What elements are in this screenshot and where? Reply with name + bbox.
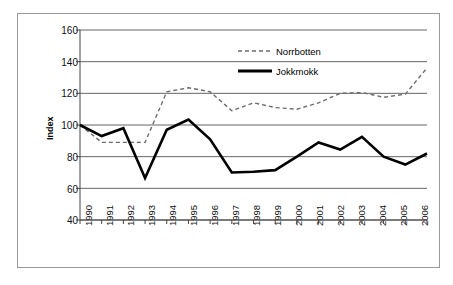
y-tick-marks <box>76 30 80 220</box>
chart-figure: Index 160 140 120 100 80 60 40 1990 1991… <box>0 0 453 285</box>
plot-area: Index 160 140 120 100 80 60 40 1990 1991… <box>0 0 453 285</box>
chart-svg <box>0 0 453 285</box>
series-line-norrbotten <box>80 68 427 142</box>
x-tick-marks <box>80 220 427 224</box>
gridlines <box>80 30 427 220</box>
series-line-jokkmokk <box>80 119 427 178</box>
